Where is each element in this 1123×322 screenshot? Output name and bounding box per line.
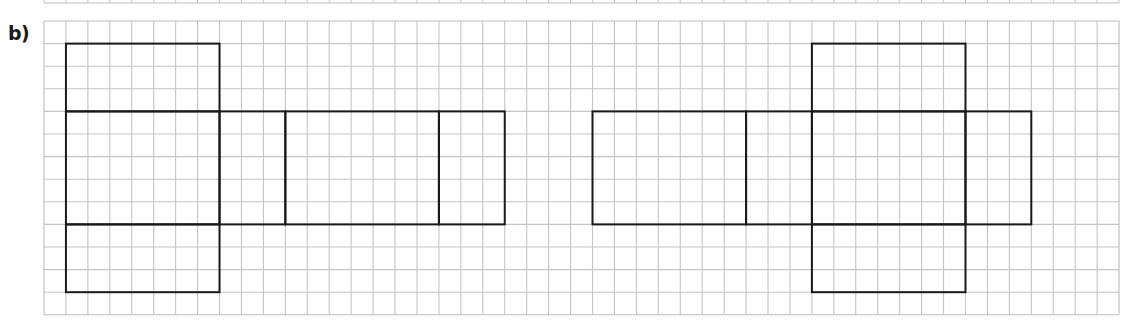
net-face: [66, 111, 220, 224]
net-face: [746, 111, 812, 224]
grid-lines: [44, 21, 1119, 315]
top-grid-strip: [44, 0, 1119, 3]
net-face: [439, 111, 505, 224]
net-face: [812, 111, 966, 224]
net-face: [285, 111, 439, 224]
net-face: [812, 44, 966, 112]
net-face: [220, 111, 286, 224]
net-face: [66, 44, 220, 112]
grid-paper-diagram: [0, 0, 1123, 322]
net-face: [812, 224, 966, 292]
net-face: [66, 224, 220, 292]
net-face: [593, 111, 747, 224]
net-face: [965, 111, 1031, 224]
